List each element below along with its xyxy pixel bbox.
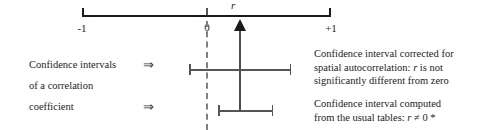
axis-tick-minus-one bbox=[82, 8, 84, 17]
annotation-line: from the usual tables: r ≠ 0 * bbox=[314, 111, 441, 125]
left-caption-line-2: of a correlation bbox=[29, 80, 93, 91]
annotation-text: from the usual tables: bbox=[314, 112, 407, 123]
annotation-text: ≠ 0 * bbox=[411, 112, 435, 123]
annotation-usual-tables-interval: Confidence interval computed from the us… bbox=[314, 97, 441, 124]
annotation-text: spatial autocorrelation: bbox=[314, 62, 413, 73]
ci-line bbox=[218, 110, 273, 112]
annotation-line: Confidence interval computed bbox=[314, 97, 441, 111]
ci-cap-upper bbox=[272, 105, 274, 116]
axis-tick-plus-one bbox=[329, 8, 331, 17]
annotation-corrected-interval: Confidence interval corrected for spatia… bbox=[314, 47, 454, 88]
annotation-text: is not bbox=[417, 62, 443, 73]
axis-label-plus-one: +1 bbox=[317, 22, 345, 34]
axis-tick-zero bbox=[206, 8, 208, 15]
annotation-line: spatial autocorrelation: r is not bbox=[314, 61, 454, 75]
annotation-line: significantly different from zero bbox=[314, 74, 454, 88]
correlation-confidence-interval-diagram: -1 0 +1 r Confidence intervals of a corr… bbox=[0, 0, 501, 130]
ci-line bbox=[189, 69, 291, 71]
double-arrow-icon-upper: ⇒ bbox=[143, 57, 154, 73]
confidence-interval-bar-corrected bbox=[189, 64, 291, 75]
ci-cap-lower bbox=[189, 64, 191, 75]
double-arrow-icon-lower: ⇒ bbox=[143, 99, 154, 115]
ci-cap-upper bbox=[290, 64, 292, 75]
confidence-interval-bar-usual-tables bbox=[218, 105, 273, 116]
observed-r-arrow-head-icon bbox=[234, 19, 246, 31]
ci-cap-lower bbox=[218, 105, 220, 116]
zero-reference-dashed-line bbox=[206, 21, 208, 130]
axis-variable-label: r bbox=[231, 0, 235, 11]
left-caption-line-1: Confidence intervals bbox=[29, 59, 116, 70]
r-axis-line bbox=[82, 15, 331, 17]
annotation-line: Confidence interval corrected for bbox=[314, 47, 454, 61]
axis-label-minus-one: -1 bbox=[68, 22, 96, 34]
left-caption-line-3: coefficient bbox=[29, 101, 74, 112]
